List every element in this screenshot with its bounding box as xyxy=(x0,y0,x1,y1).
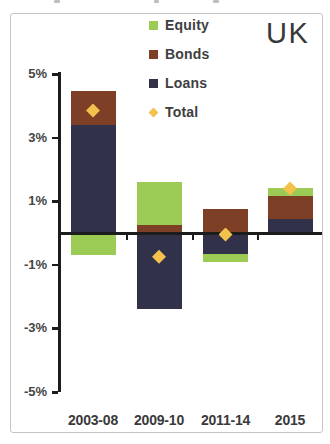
bar-segment-bonds xyxy=(268,196,313,218)
y-tick-label: 3% xyxy=(8,128,47,148)
legend-label: Loans xyxy=(165,76,207,91)
bar-segment-equity xyxy=(203,254,248,262)
category-tick xyxy=(126,235,128,240)
y-axis-tick xyxy=(52,391,58,394)
legend-item-bonds: Bonds xyxy=(149,47,210,62)
legend-item-equity: Equity xyxy=(149,18,209,33)
y-tick-label: -3% xyxy=(8,318,47,338)
equity-swatch-icon xyxy=(149,21,158,30)
y-axis-tick xyxy=(52,264,58,267)
y-axis-tick xyxy=(52,327,58,330)
y-axis-tick xyxy=(52,137,58,140)
x-category-label: 2015 xyxy=(255,410,325,430)
x-category-label: 2003-08 xyxy=(58,410,128,430)
legend-label: Bonds xyxy=(165,47,210,62)
y-axis-tick xyxy=(52,73,58,76)
cropped-text-remnant xyxy=(54,0,60,3)
x-category-label: 2009-10 xyxy=(124,410,194,430)
bar-segment-loans xyxy=(137,233,182,309)
loans-swatch-icon xyxy=(149,79,158,88)
legend-label: Total xyxy=(165,105,198,120)
cropped-text-remnant xyxy=(213,0,219,3)
bonds-swatch-icon xyxy=(149,50,158,59)
total-diamond-icon xyxy=(149,108,159,118)
x-axis-line xyxy=(58,232,322,235)
y-tick-label: 1% xyxy=(8,191,47,211)
category-tick xyxy=(257,235,259,240)
y-axis-tick xyxy=(52,200,58,203)
y-tick-label: -5% xyxy=(8,382,47,402)
y-tick-label: -1% xyxy=(8,255,47,275)
bar-segment-equity xyxy=(71,233,116,255)
legend-item-total: Total xyxy=(149,105,198,120)
legend-item-loans: Loans xyxy=(149,76,207,91)
chart-figure: Equity Bonds Loans Total UK 5%3%1%-1%-3%… xyxy=(0,0,330,444)
cropped-text-remnant xyxy=(154,0,159,3)
y-tick-label: 5% xyxy=(8,64,47,84)
bar-segment-loans xyxy=(71,125,116,233)
bar-segment-equity xyxy=(137,182,182,225)
legend-label: Equity xyxy=(165,18,209,33)
category-tick xyxy=(192,235,194,240)
region-title: UK xyxy=(266,16,309,50)
x-category-label: 2011-14 xyxy=(191,410,261,430)
